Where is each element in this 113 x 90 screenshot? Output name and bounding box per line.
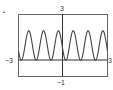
x-min-label: −3 <box>5 57 13 64</box>
y-max-label: 3 <box>60 5 64 12</box>
x-max-label: 3 <box>108 57 112 64</box>
y-min-label: −1 <box>57 79 65 86</box>
chart-plot <box>0 0 113 90</box>
